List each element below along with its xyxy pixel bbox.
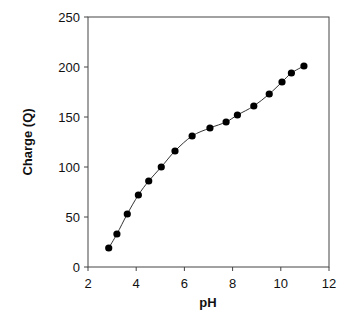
y-axis: 050100150200250 (58, 10, 88, 275)
data-point (234, 111, 241, 118)
data-point (124, 210, 131, 217)
data-points (105, 62, 307, 251)
data-point (278, 78, 285, 85)
data-point (171, 147, 178, 154)
data-point (113, 230, 120, 237)
plot-frame (88, 17, 329, 267)
data-point (250, 102, 257, 109)
x-tick-label: 4 (133, 276, 140, 291)
x-axis: 24681012 (84, 267, 336, 291)
data-point (135, 191, 142, 198)
data-point (206, 124, 213, 131)
data-point (222, 118, 229, 125)
y-tick-label: 100 (58, 160, 80, 175)
y-tick-label: 250 (58, 10, 80, 25)
y-tick-label: 150 (58, 110, 80, 125)
chart: 24681012 050100150200250 pH Charge (Q) (0, 0, 354, 332)
fit-curve (109, 66, 304, 248)
x-tick-label: 6 (181, 276, 188, 291)
x-tick-label: 2 (84, 276, 91, 291)
data-point (145, 177, 152, 184)
data-point (189, 132, 196, 139)
x-tick-label: 8 (229, 276, 236, 291)
y-tick-label: 50 (66, 210, 80, 225)
plot-border (88, 17, 329, 267)
data-point (158, 163, 165, 170)
x-tick-label: 10 (274, 276, 288, 291)
data-point (288, 69, 295, 76)
y-axis-title: Charge (Q) (20, 108, 35, 175)
x-tick-label: 12 (322, 276, 336, 291)
data-point (266, 90, 273, 97)
data-point (105, 244, 112, 251)
y-tick-label: 200 (58, 60, 80, 75)
y-tick-label: 0 (73, 260, 80, 275)
data-point (300, 62, 307, 69)
x-axis-title: pH (199, 295, 216, 310)
